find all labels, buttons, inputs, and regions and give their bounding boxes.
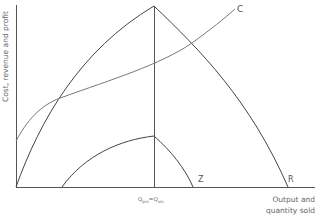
x-tick-label-q: Qpm=Qsm [138, 196, 164, 204]
y-axis-label: Cost, revenue and profit [1, 2, 10, 112]
x-axis-label: Output and quantity sold [266, 194, 315, 216]
cost-curve-c [16, 9, 235, 141]
q-eq: =Q [149, 196, 158, 202]
profit-curve-z [62, 136, 193, 187]
curve-label-c: C [237, 4, 243, 14]
x-axis-label-line2: quantity sold [266, 205, 315, 216]
revenue-curve-r [16, 6, 288, 187]
curve-label-r: R [288, 175, 294, 185]
chart-canvas [0, 0, 320, 222]
q-sub-sm: sm [158, 199, 164, 204]
curve-label-z: Z [198, 175, 203, 185]
x-axis-label-line1: Output and [266, 194, 315, 205]
